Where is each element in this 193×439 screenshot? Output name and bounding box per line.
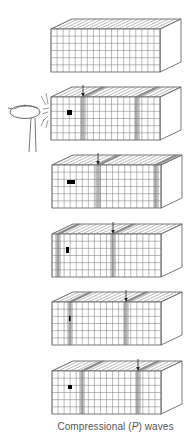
block-4 xyxy=(52,222,182,277)
p-wave-diagram xyxy=(0,0,193,439)
block-3 xyxy=(52,153,182,208)
block-6 xyxy=(52,359,182,414)
block-stack xyxy=(51,19,182,414)
particle-marker xyxy=(69,316,71,321)
particle-marker xyxy=(68,385,72,389)
caption-prefix: Compressional ( xyxy=(57,421,131,432)
block-5 xyxy=(52,290,182,345)
particle-marker xyxy=(67,110,72,115)
particle-marker xyxy=(66,247,69,253)
impact-lines-icon xyxy=(41,93,49,128)
figure-caption: Compressional (P) waves xyxy=(0,421,193,432)
particle-marker xyxy=(67,180,75,184)
hammer-icon xyxy=(8,93,49,152)
block-1 xyxy=(51,19,181,72)
block-2 xyxy=(51,85,181,140)
caption-suffix: ) waves xyxy=(138,421,173,432)
